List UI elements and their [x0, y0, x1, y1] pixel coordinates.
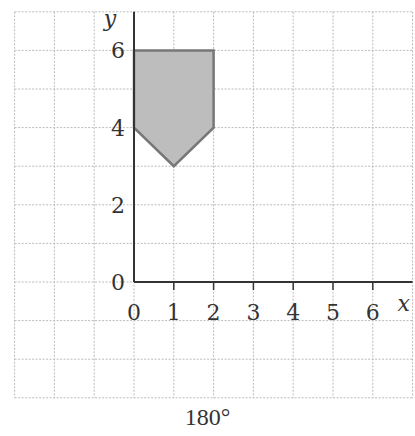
shaded-pentagon — [134, 50, 214, 166]
svg-text:2: 2 — [111, 193, 125, 218]
coordinate-plane: 01234560246xy — [0, 0, 415, 436]
svg-text:y: y — [103, 6, 117, 31]
svg-text:5: 5 — [326, 300, 340, 325]
svg-text:4: 4 — [111, 116, 125, 141]
svg-text:6: 6 — [366, 300, 380, 325]
svg-text:6: 6 — [111, 38, 125, 63]
svg-text:0: 0 — [111, 270, 125, 295]
coordinate-grid-figure: 01234560246xy 180° — [0, 0, 415, 436]
rotation-caption: 180° — [0, 404, 415, 431]
svg-text:0: 0 — [127, 300, 141, 325]
svg-text:x: x — [398, 291, 411, 316]
svg-text:2: 2 — [207, 300, 221, 325]
svg-text:3: 3 — [246, 300, 260, 325]
svg-text:1: 1 — [167, 300, 181, 325]
svg-text:4: 4 — [286, 300, 300, 325]
